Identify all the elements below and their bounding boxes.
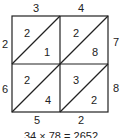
top-digit-1: 3 [29, 2, 43, 14]
right-digit-2: 8 [109, 82, 122, 94]
cell-1-1-ones: 2 [88, 94, 100, 106]
cell-1-1-tens: 3 [70, 74, 82, 86]
left-digit-2: 6 [0, 83, 12, 95]
cell-1-0-tens: 2 [21, 74, 33, 86]
bottom-digit-2: 2 [74, 114, 88, 126]
cell-0-0-tens: 2 [21, 27, 33, 39]
cell-1-0-ones: 4 [42, 94, 54, 106]
bottom-digit-1: 5 [30, 114, 44, 126]
lattice-grid [0, 0, 122, 138]
equation-caption: 34 × 78 = 2652 [0, 130, 122, 138]
cell-0-1-tens: 2 [70, 27, 82, 39]
cell-0-0-ones: 1 [41, 46, 53, 58]
top-digit-2: 4 [74, 2, 88, 14]
left-digit-1: 2 [0, 38, 12, 50]
right-digit-1: 7 [109, 36, 122, 48]
cell-0-1-ones: 8 [89, 46, 101, 58]
